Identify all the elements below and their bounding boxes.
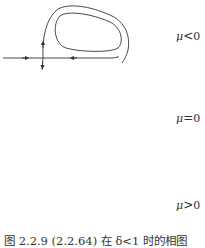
panel-mu-negative (3, 6, 129, 70)
label-mu-negative: μ<0 (176, 29, 200, 43)
label-value: 0 (193, 30, 200, 43)
figure-caption: 图 2.2.9 (2.2.64) 在 δ<1 时的相图 (4, 232, 187, 248)
label-value: 0 (193, 199, 200, 212)
label-relation: = (183, 111, 193, 125)
label-relation: > (183, 198, 193, 212)
label-mu-positive: μ>0 (176, 198, 200, 212)
homoclinic-lower-branch (43, 57, 118, 58)
label-relation: < (183, 29, 193, 43)
limit-cycle (55, 13, 121, 51)
label-mu-zero: μ=0 (176, 111, 200, 125)
label-value: 0 (193, 112, 200, 125)
